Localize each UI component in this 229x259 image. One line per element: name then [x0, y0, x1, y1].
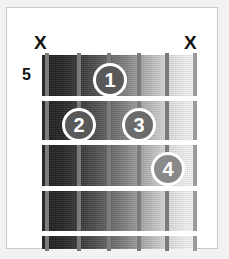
string-4 — [137, 53, 141, 251]
chord-diagram-card: X X 5 1 2 3 4 — [6, 7, 218, 249]
fret-line-1 — [42, 96, 197, 101]
string-6 — [193, 53, 197, 251]
string-1 — [45, 53, 49, 251]
finger-marker-1: 1 — [93, 63, 127, 97]
fret-line-4 — [42, 231, 197, 236]
finger-marker-2: 2 — [62, 108, 96, 142]
fret-line-2 — [42, 140, 197, 145]
chord-diagram: X X 5 1 2 3 4 — [0, 0, 229, 259]
mute-marker-string-1: X — [34, 33, 47, 52]
fret-position-label: 5 — [22, 67, 31, 83]
fret-line-3 — [42, 186, 197, 191]
finger-marker-3: 3 — [122, 108, 156, 142]
mute-marker-string-6: X — [184, 33, 197, 52]
finger-marker-4: 4 — [151, 152, 185, 186]
fretboard: 1 2 3 4 — [42, 55, 197, 249]
string-2 — [77, 53, 81, 251]
